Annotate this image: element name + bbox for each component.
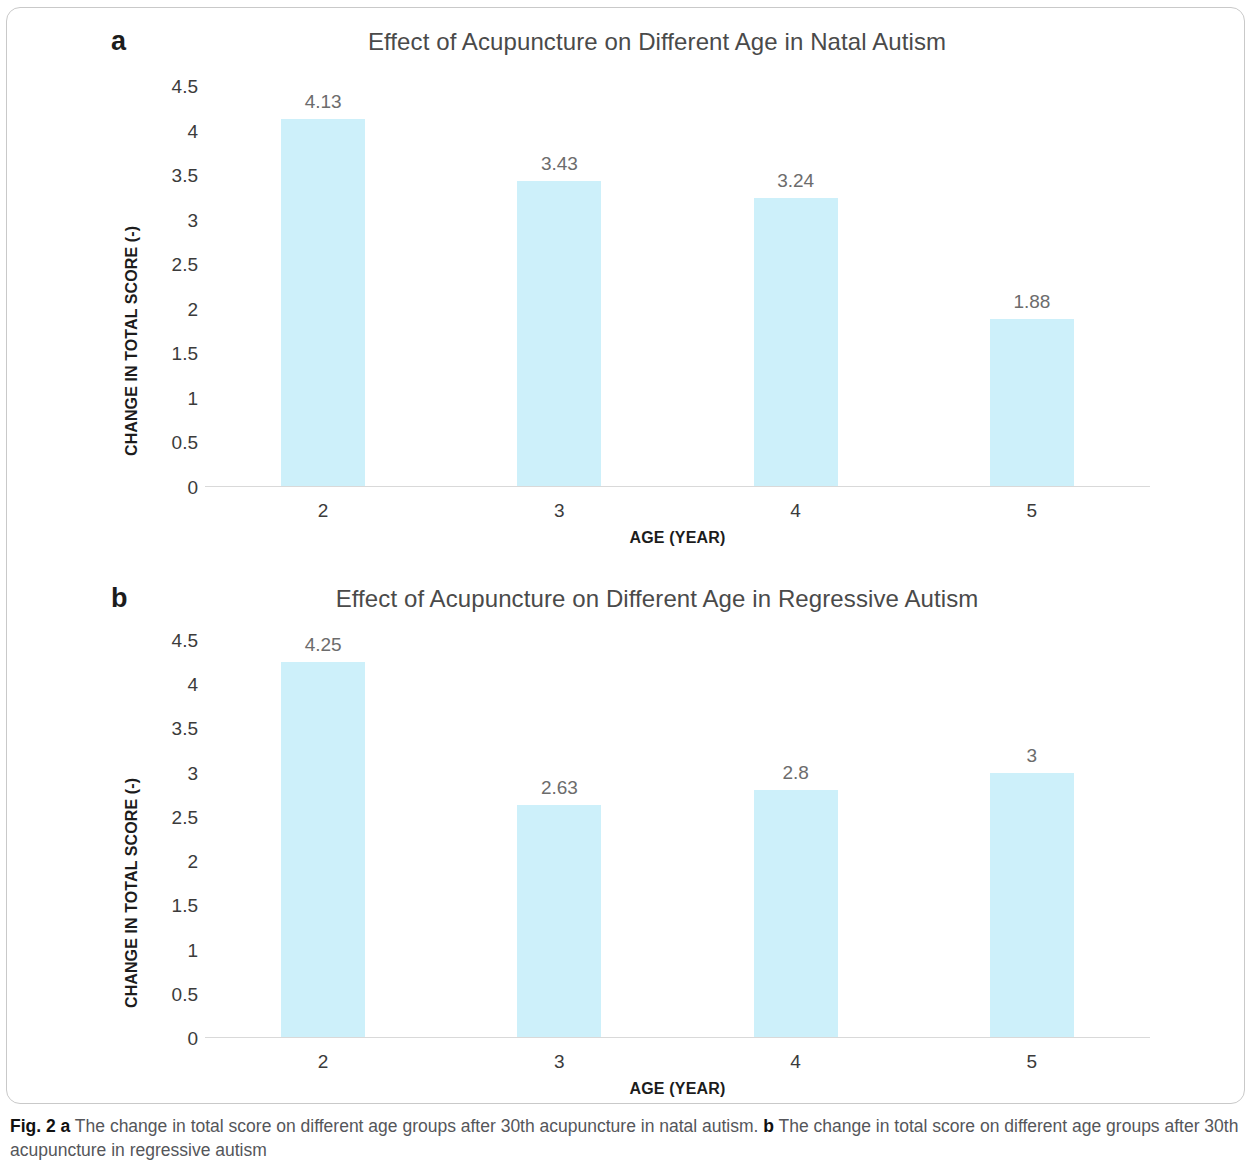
x-axis-line-a: [205, 486, 1150, 487]
bar-slot: 1.88: [914, 86, 1150, 487]
y-tick-label: 2: [187, 299, 198, 318]
y-tick-label: 4.5: [172, 631, 198, 650]
chart-title-a: Effect of Acupuncture on Different Age i…: [157, 28, 1157, 56]
plot-area-a: 4.133.433.241.88: [205, 86, 1150, 487]
y-tick-label: 3.5: [172, 166, 198, 185]
plot-area-b: 4.252.632.83: [205, 640, 1150, 1038]
y-tick-label: 3.5: [172, 719, 198, 738]
y-axis-title-a: CHANGE IN TOTAL SCORE (-): [123, 226, 141, 456]
bar[interactable]: [990, 319, 1074, 487]
figure-frame: a Effect of Acupuncture on Different Age…: [6, 7, 1245, 1104]
chart-title-b: Effect of Acupuncture on Different Age i…: [157, 585, 1157, 613]
chart-panel-b: b Effect of Acupuncture on Different Age…: [7, 570, 1246, 1105]
bar[interactable]: [281, 662, 365, 1038]
y-axis-title-b: CHANGE IN TOTAL SCORE (-): [123, 778, 141, 1008]
bar[interactable]: [990, 773, 1074, 1038]
x-axis-ticks-a: 2345: [205, 500, 1150, 522]
y-tick-label: 0: [187, 478, 198, 497]
y-tick-label: 1.5: [172, 344, 198, 363]
caption-figure-number: Fig. 2: [10, 1116, 56, 1136]
bar-value-label: 4.13: [305, 91, 342, 113]
x-axis-line-b: [205, 1037, 1150, 1038]
figure-page: a Effect of Acupuncture on Different Age…: [0, 0, 1251, 1174]
bar-slot: 3: [914, 640, 1150, 1038]
bar-slot: 4.25: [205, 640, 441, 1038]
bar[interactable]: [754, 198, 838, 487]
bar-value-label: 2.8: [782, 762, 808, 784]
y-tick-label: 2: [187, 852, 198, 871]
bar-value-label: 3: [1027, 745, 1038, 767]
bar-slot: 4.13: [205, 86, 441, 487]
x-tick-label: 4: [678, 500, 914, 522]
y-tick-label: 2.5: [172, 807, 198, 826]
caption-letter-b: b: [763, 1116, 774, 1136]
caption-letter-a: a: [61, 1116, 71, 1136]
bar-value-label: 4.25: [305, 634, 342, 656]
bar-slot: 3.43: [441, 86, 677, 487]
bar-value-label: 1.88: [1013, 291, 1050, 313]
y-axis-ticks-a: 00.511.522.533.544.5: [142, 86, 198, 487]
panel-letter-a: a: [111, 26, 126, 57]
x-tick-label: 3: [441, 500, 677, 522]
x-tick-label: 5: [914, 1051, 1150, 1073]
bar[interactable]: [517, 181, 601, 487]
bar-slot: 2.63: [441, 640, 677, 1038]
y-tick-label: 1.5: [172, 896, 198, 915]
y-tick-label: 4: [187, 121, 198, 140]
x-tick-label: 5: [914, 500, 1150, 522]
y-tick-label: 3: [187, 210, 198, 229]
panel-letter-b: b: [111, 583, 128, 614]
y-axis-ticks-b: 00.511.522.533.544.5: [142, 640, 198, 1038]
x-tick-label: 4: [678, 1051, 914, 1073]
x-tick-label: 2: [205, 500, 441, 522]
y-tick-label: 4: [187, 675, 198, 694]
bar-slot: 3.24: [678, 86, 914, 487]
y-tick-label: 4.5: [172, 77, 198, 96]
bar-value-label: 3.43: [541, 153, 578, 175]
y-tick-label: 0.5: [172, 984, 198, 1003]
caption-text-a: The change in total score on different a…: [75, 1116, 759, 1136]
x-axis-title-a: AGE (YEAR): [205, 529, 1150, 547]
figure-caption: Fig. 2 a The change in total score on di…: [10, 1114, 1240, 1162]
y-tick-label: 0.5: [172, 433, 198, 452]
bar-slot: 2.8: [678, 640, 914, 1038]
bar[interactable]: [754, 790, 838, 1038]
bar[interactable]: [281, 119, 365, 487]
y-tick-label: 3: [187, 763, 198, 782]
x-tick-label: 2: [205, 1051, 441, 1073]
x-tick-label: 3: [441, 1051, 677, 1073]
bar-group-a: 4.133.433.241.88: [205, 86, 1150, 487]
y-tick-label: 1: [187, 940, 198, 959]
bar-value-label: 2.63: [541, 777, 578, 799]
y-tick-label: 1: [187, 388, 198, 407]
bar[interactable]: [517, 805, 601, 1038]
x-axis-ticks-b: 2345: [205, 1051, 1150, 1073]
chart-panel-a: a Effect of Acupuncture on Different Age…: [7, 8, 1246, 568]
bar-value-label: 3.24: [777, 170, 814, 192]
y-tick-label: 0: [187, 1029, 198, 1048]
bar-group-b: 4.252.632.83: [205, 640, 1150, 1038]
y-tick-label: 2.5: [172, 255, 198, 274]
x-axis-title-b: AGE (YEAR): [205, 1080, 1150, 1098]
